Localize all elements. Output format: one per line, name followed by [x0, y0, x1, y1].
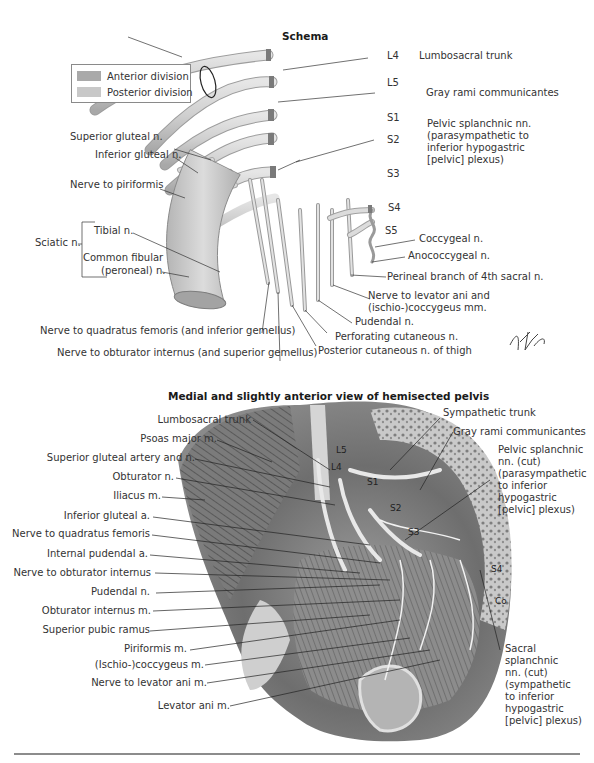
- label-p-inferior-gluteal-a: Inferior gluteal a.: [64, 510, 150, 522]
- label-common-fibular-1: Common fibular: [83, 252, 163, 264]
- label-tibial: Tibial n.: [94, 225, 133, 237]
- label-posterior-cutaneous: Posterior cutaneous n. of thigh: [318, 345, 472, 357]
- label-levator-ani-2: (ischio-)coccygeus mm.: [368, 302, 487, 314]
- label-p-nerve-quadratus-femoris: Nerve to quadratus femoris: [12, 528, 150, 540]
- label-gray-rami: Gray rami communicantes: [426, 87, 559, 99]
- label-inferior-gluteal: Inferior gluteal n.: [95, 149, 181, 161]
- label-p-psoas-major: Psoas major m.: [140, 433, 217, 445]
- label-nerve-piriformis: Nerve to piriformis: [70, 179, 164, 191]
- label-p-nerve-obturator-internus: Nerve to obturator internus: [13, 567, 151, 579]
- label-p-gray-rami: Gray rami communicantes: [453, 426, 586, 438]
- label-p-pelvic-splanchnic-2: nn. (cut): [498, 456, 541, 468]
- bottom-divider: [14, 753, 580, 755]
- segment-S1: S1: [387, 112, 400, 123]
- label-p-sacral-splanchnic-6: hypogastric: [505, 703, 564, 715]
- legend-label-posterior: Posterior division: [107, 87, 193, 98]
- svg-text:S2: S2: [390, 503, 401, 513]
- label-perineal-branch: Perineal branch of 4th sacral n.: [387, 271, 543, 283]
- label-nerve-quadratus-femoris: Nerve to quadratus femoris (and inferior…: [40, 325, 295, 337]
- svg-text:S4: S4: [491, 564, 503, 574]
- label-pudendal: Pudendal n.: [355, 316, 414, 328]
- label-p-obturator-internus-m: Obturator internus m.: [42, 605, 151, 617]
- label-p-pelvic-splanchnic-3: (parasympathetic: [498, 468, 587, 480]
- label-levator-ani-1: Nerve to levator ani and: [368, 290, 490, 302]
- svg-text:S3: S3: [408, 527, 419, 537]
- label-p-superior-gluteal-artery: Superior gluteal artery and n.: [47, 452, 195, 464]
- label-pelvic-splanchnic-2: (parasympathetic to: [427, 130, 529, 142]
- schema-title: Schema: [282, 30, 328, 42]
- segment-L4: L4: [387, 50, 399, 61]
- label-sciatic: Sciatic n.: [35, 237, 81, 249]
- legend-item-anterior: Anterior division: [77, 70, 189, 82]
- label-anococcygeal: Anococcygeal n.: [408, 250, 490, 262]
- legend-item-posterior: Posterior division: [77, 86, 193, 98]
- anterior-swatch: [77, 71, 101, 81]
- label-p-nerve-levator-ani: Nerve to levator ani m.: [91, 677, 207, 689]
- label-pelvic-splanchnic-4: [pelvic] plexus): [427, 154, 504, 166]
- pelvis-title: Medial and slightly anterior view of hem…: [168, 390, 489, 402]
- svg-text:S1: S1: [367, 477, 378, 487]
- segment-S2: S2: [387, 134, 400, 145]
- label-common-fibular-2: (peroneal) n.: [101, 265, 165, 277]
- legend: Anterior division Posterior division: [71, 64, 191, 103]
- segment-L5: L5: [387, 77, 399, 88]
- label-p-superior-pubic-ramus: Superior pubic ramus: [43, 624, 151, 636]
- label-p-iliacus: Iliacus m.: [113, 490, 161, 502]
- svg-text:Co: Co: [495, 596, 507, 606]
- label-nerve-obturator-internus: Nerve to obturator internus (and superio…: [57, 347, 317, 359]
- label-p-pelvic-splanchnic-1: Pelvic splanchnic: [498, 444, 583, 456]
- svg-text:L5: L5: [336, 445, 347, 455]
- label-p-sacral-splanchnic-2: splanchnic: [505, 655, 558, 667]
- label-superior-gluteal: Superior gluteal n.: [70, 131, 163, 143]
- label-p-sacral-splanchnic-4: (sympathetic: [505, 679, 571, 691]
- label-p-internal-pudendal-a: Internal pudendal a.: [47, 548, 148, 560]
- label-pelvic-splanchnic-1: Pelvic splanchnic nn.: [427, 118, 531, 130]
- label-p-ischiococcygeus: (Ischio-)coccygeus m.: [95, 659, 204, 671]
- label-p-piriformis: Piriformis m.: [124, 643, 187, 655]
- label-perforating-cutaneous: Perforating cutaneous n.: [335, 331, 458, 343]
- legend-label-anterior: Anterior division: [107, 71, 189, 82]
- label-p-obturator-n: Obturator n.: [112, 471, 174, 483]
- label-p-sacral-splanchnic-7: [pelvic] plexus): [505, 715, 582, 727]
- label-p-sacral-splanchnic-5: to inferior: [505, 691, 554, 703]
- label-lumbosacral-trunk: Lumbosacral trunk: [419, 50, 512, 62]
- label-pelvic-splanchnic-3: inferior hypogastric: [427, 142, 525, 154]
- label-p-sacral-splanchnic-1: Sacral: [505, 643, 536, 655]
- posterior-swatch: [77, 87, 101, 97]
- label-p-lumbosacral-trunk: Lumbosacral trunk: [158, 414, 251, 426]
- label-p-pelvic-splanchnic-6: [pelvic] plexus): [498, 504, 575, 516]
- segment-S4: S4: [388, 202, 401, 213]
- segment-S3: S3: [387, 168, 400, 179]
- label-p-pelvic-splanchnic-5: hypogastric: [498, 492, 557, 504]
- label-p-pudendal-n: Pudendal n.: [91, 586, 150, 598]
- label-p-pelvic-splanchnic-4: to inferior: [498, 480, 547, 492]
- label-p-levator-ani: Levator ani m.: [158, 700, 230, 712]
- svg-text:L4: L4: [331, 462, 342, 472]
- label-coccygeal: Coccygeal n.: [419, 233, 483, 245]
- label-p-sympathetic-trunk: Sympathetic trunk: [443, 407, 536, 419]
- signature-mark: [510, 332, 544, 350]
- segment-S5: S5: [385, 225, 398, 236]
- label-p-sacral-splanchnic-3: nn. (cut): [505, 667, 548, 679]
